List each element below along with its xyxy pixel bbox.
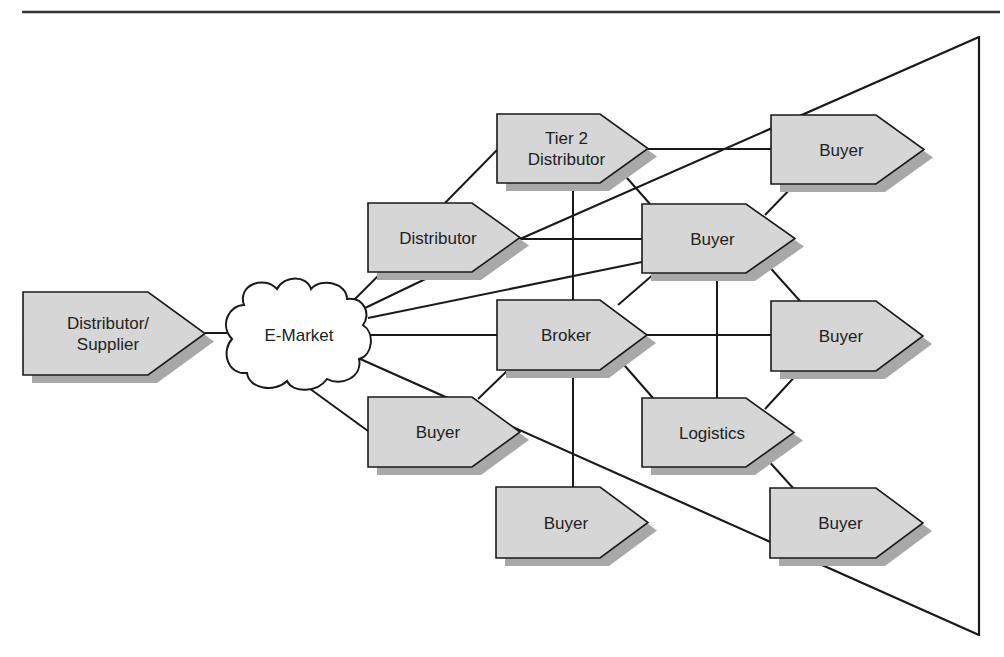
node-label: Distributor/	[67, 314, 149, 333]
node-label: Tier 2	[545, 129, 588, 148]
node-label: Broker	[541, 326, 591, 345]
node-label: Buyer	[416, 423, 461, 442]
network-diagram: E-Market Distributor/SupplierTier 2Distr…	[0, 0, 1004, 657]
node-label: Supplier	[77, 335, 140, 354]
node-label: Distributor	[399, 229, 477, 248]
node-label: Buyer	[690, 230, 735, 249]
node-label: Buyer	[544, 514, 589, 533]
e-market-label: E-Market	[265, 326, 334, 345]
node-label: Buyer	[819, 141, 864, 160]
node-label: Buyer	[818, 514, 863, 533]
node-label: Buyer	[819, 327, 864, 346]
node-label: Distributor	[528, 150, 606, 169]
node-label: Logistics	[679, 424, 745, 443]
